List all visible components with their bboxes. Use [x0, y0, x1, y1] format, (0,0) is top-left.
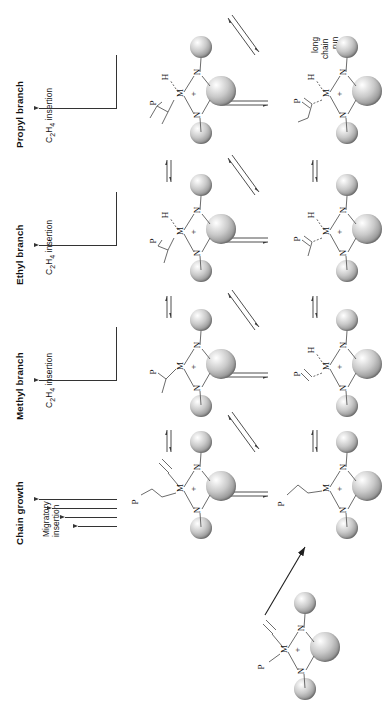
bond-skeleton	[274, 437, 384, 547]
product-arrow-propyl-stem	[116, 55, 117, 109]
bond-skeleton	[128, 42, 238, 152]
product-arrow-ethyl-stem	[116, 192, 117, 246]
bond-skeleton	[128, 437, 238, 547]
chain-growth-arrow-3-line	[65, 517, 117, 518]
bond-skeleton	[128, 180, 238, 290]
product-arrow-methyl-line	[39, 380, 117, 381]
equilibrium-vertical-left-1	[167, 160, 171, 182]
chain-growth-arrow-1-line	[39, 499, 117, 500]
chain-growth-arrow-3-head	[60, 515, 65, 519]
label-insertion-2: C2H4 insertion	[44, 220, 56, 275]
molecule-olefin-pi-right-2: M + N N H P	[274, 180, 384, 290]
molecule-olefin-pi-right-1: M + N N H P	[274, 42, 384, 152]
molecule-propyl-agostic-left: M + N N H P	[128, 42, 238, 152]
molecule-ethyl-agostic-left: M + N N H P	[128, 180, 238, 290]
chain-growth-arrow-4-line	[78, 526, 117, 527]
molecule-ethylene-initiator: M + N N P	[232, 598, 342, 708]
product-arrow-methyl-head	[34, 378, 39, 382]
bond-skeleton	[274, 315, 384, 425]
equilibrium-vertical-right-1	[313, 160, 317, 182]
label-migratory-insertion-line2: insertion	[51, 504, 61, 537]
bond-skeleton	[128, 315, 238, 425]
product-arrow-ethyl-head	[34, 243, 39, 247]
chain-growth-arrow-1-head	[34, 497, 39, 501]
bond-skeleton	[274, 42, 384, 152]
label-ethyl-branch: Ethyl branch	[14, 224, 25, 285]
insertion-2-formula: C2H4 insertion	[44, 220, 54, 275]
product-arrow-ethyl-line	[39, 245, 117, 246]
molecule-alkyl-right: M + N N P	[274, 437, 384, 547]
label-insertion-1: C2H4 insertion	[44, 88, 56, 143]
label-methyl-branch: Methyl branch	[14, 352, 25, 420]
diagram-canvas: Propyl branch C2H4 insertion Ethyl branc…	[0, 0, 387, 726]
insertion-1-formula: C2H4 insertion	[44, 88, 54, 143]
product-arrow-propyl-line	[39, 108, 117, 109]
chain-growth-arrow-2-line	[52, 508, 117, 509]
bond-skeleton	[232, 598, 342, 708]
label-chain-growth: Chain growth	[14, 481, 25, 545]
molecule-alkyl-ethylene-left: M + N N P	[128, 437, 238, 547]
chain-growth-arrow-2-head	[47, 506, 52, 510]
bond-skeleton	[274, 180, 384, 290]
molecule-methyl-agostic-left: M + N N P	[128, 315, 238, 425]
chain-growth-arrow-4-head	[73, 524, 78, 528]
product-arrow-methyl-stem	[116, 327, 117, 381]
label-propyl-branch: Propyl branch	[14, 81, 25, 148]
product-arrow-propyl-head	[34, 106, 39, 110]
molecule-olefin-pi-right-3: M + N N H P	[274, 315, 384, 425]
